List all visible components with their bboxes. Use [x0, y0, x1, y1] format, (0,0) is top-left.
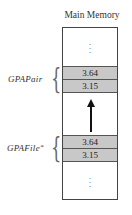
top-ellipsis-icon: ··· — [63, 42, 117, 54]
gpapair-brace-icon: { — [51, 65, 61, 92]
memory-column: ··· 3.64 3.15 3.64 3.15 ··· — [62, 27, 118, 200]
arrow-up-icon — [87, 99, 95, 107]
gpafile-cell-2: 3.15 — [63, 148, 117, 162]
gpafile-brace-icon: { — [51, 134, 61, 161]
gpapair-cell-1: 3.64 — [63, 66, 117, 79]
bottom-ellipsis-icon: ··· — [63, 176, 117, 188]
gpafile-label-text: GPAFile — [7, 143, 40, 153]
arrow-shaft — [90, 106, 92, 132]
main-memory-title: Main Memory — [56, 10, 128, 20]
gpapair-cell-2: 3.15 — [63, 79, 117, 93]
gpapair-label-text: GPAPair — [8, 74, 42, 84]
gpapair-label: GPAPair — [8, 74, 42, 84]
gpafile-cell-1: 3.64 — [63, 135, 117, 148]
gpafile-label: GPAFile* — [7, 143, 44, 153]
gpafile-marker: * — [40, 143, 44, 151]
